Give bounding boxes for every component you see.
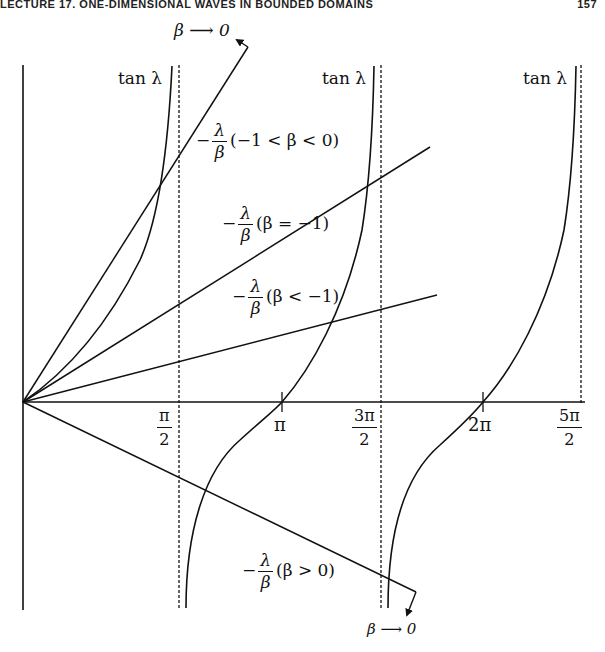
tan-curve-branch-3 — [388, 66, 576, 608]
label-line-eq-neg1: −λβ(β = −1) — [222, 205, 329, 244]
arrow-beta-to-0-bottom — [407, 592, 416, 615]
tick-label-2pi: 2π — [468, 414, 491, 435]
label-beta-to-0-bottom: β ⟶ 0 — [367, 622, 416, 637]
tan-curve-branch-1 — [23, 66, 172, 402]
line-beta-equals-minus1 — [23, 147, 430, 402]
label-line-neg1-to-0: −λβ(−1 < β < 0) — [196, 122, 339, 161]
line-beta-less-than-minus1 — [23, 295, 437, 402]
tick-label-5pi-over-2: 5π2 — [557, 406, 582, 449]
label-tan-3: tan λ — [523, 70, 567, 87]
arrow-beta-to-0-top — [237, 40, 248, 47]
tick-label-3pi-over-2: 3π2 — [352, 406, 377, 449]
label-line-lt-neg1: −λβ(β < −1) — [232, 278, 339, 317]
tick-label-pi-over-2: π2 — [157, 406, 172, 449]
label-line-gt-0: −λβ(β > 0) — [242, 552, 335, 591]
tick-label-pi: π — [274, 414, 286, 435]
line-beta-between-minus1-and-0 — [23, 47, 248, 402]
label-beta-to-0-top: β ⟶ 0 — [174, 22, 230, 39]
label-tan-2: tan λ — [322, 70, 366, 87]
label-tan-1: tan λ — [118, 70, 162, 87]
